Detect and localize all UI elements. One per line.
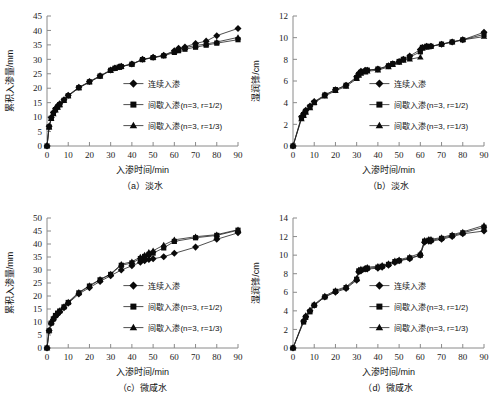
marker-triangle [376, 324, 384, 330]
y-tick-label: 45 [33, 11, 43, 21]
marker-triangle [130, 122, 138, 128]
x-tick-label: 0 [291, 352, 296, 362]
x-tick-label: 10 [64, 352, 74, 362]
legend-label: 间歇入渗(n=3, r=1/2) [148, 100, 222, 110]
x-tick-label: 30 [106, 352, 116, 362]
y-tick-label: 40 [33, 26, 43, 36]
x-tick-label: 40 [373, 150, 383, 160]
x-tick-label: 20 [85, 150, 95, 160]
x-tick-label: 50 [395, 150, 405, 160]
marker-triangle [376, 122, 384, 128]
x-tick-label: 80 [212, 150, 222, 160]
x-tick-label: 40 [373, 352, 383, 362]
y-tick-label: 35 [33, 252, 43, 262]
x-tick-label: 60 [416, 352, 426, 362]
y-tick-label: 0 [284, 141, 289, 151]
chart-panel-b: 0246810120102030405060708090湿润锋/cm入渗时间/m… [246, 0, 492, 202]
marker-square [376, 304, 382, 310]
panel-caption: （b）淡水 [368, 180, 409, 191]
legend-label: 间歇入渗(n=3, r=1/3) [148, 323, 222, 333]
chart-svg-a: 0510152025303540450102030405060708090累积入… [0, 0, 246, 202]
x-tick-label: 40 [127, 352, 137, 362]
y-tick-label: 20 [33, 83, 43, 93]
marker-square [376, 102, 382, 108]
x-tick-label: 70 [191, 150, 201, 160]
x-tick-label: 70 [191, 352, 201, 362]
y-axis-title: 累积入渗量/mm [4, 252, 15, 315]
x-tick-label: 0 [291, 150, 296, 160]
x-tick-label: 10 [310, 150, 320, 160]
marker-diamond [234, 25, 241, 32]
x-tick-label: 0 [45, 150, 50, 160]
x-tick-label: 90 [480, 352, 490, 362]
legend-label: 间歇入渗(n=3, r=1/3) [148, 121, 222, 131]
legend-label: 间歇入渗(n=3, r=1/2) [148, 302, 222, 312]
legend-entry: 间歇入渗(n=3, r=1/2) [123, 302, 222, 312]
y-tick-label: 0 [38, 141, 43, 151]
x-tick-label: 80 [212, 352, 222, 362]
marker-diamond [129, 282, 137, 290]
legend-label: 连续入渗 [148, 79, 180, 89]
y-axis-title: 累积入渗量/mm [4, 50, 15, 113]
y-tick-label: 25 [33, 278, 43, 288]
x-tick-label: 30 [352, 150, 362, 160]
marker-triangle [160, 242, 167, 247]
x-tick-label: 70 [437, 352, 447, 362]
marker-diamond [160, 253, 167, 260]
x-tick-label: 90 [234, 150, 244, 160]
marker-square [130, 304, 136, 310]
legend-entry: 间歇入渗(n=3, r=1/2) [369, 100, 468, 110]
y-tick-label: 8 [284, 55, 289, 65]
y-tick-label: 4 [284, 306, 289, 316]
legend-entry: 连续入渗 [123, 79, 180, 89]
figure-container: 0510152025303540450102030405060708090累积入… [0, 0, 492, 405]
legend-label: 间歇入渗(n=3, r=1/3) [394, 121, 468, 131]
x-tick-label: 20 [85, 352, 95, 362]
legend-entry: 连续入渗 [123, 281, 180, 291]
chart-svg-b: 0246810120102030405060708090湿润锋/cm入渗时间/m… [246, 0, 492, 202]
x-tick-label: 20 [331, 150, 341, 160]
x-tick-label: 90 [480, 150, 490, 160]
y-tick-label: 15 [33, 304, 43, 314]
legend-entry: 连续入渗 [369, 281, 426, 291]
chart-panel-c: 051015202530354045500102030405060708090累… [0, 202, 246, 404]
y-tick-label: 5 [38, 127, 43, 137]
marker-diamond [375, 282, 383, 290]
x-tick-label: 0 [45, 352, 50, 362]
panel-caption: （c）微咸水 [118, 382, 168, 393]
x-tick-label: 60 [170, 352, 180, 362]
x-tick-label: 60 [170, 150, 180, 160]
x-tick-label: 20 [331, 352, 341, 362]
x-axis-title: 入渗时间/min [362, 164, 415, 175]
y-tick-label: 6 [284, 287, 289, 297]
chart-svg-c: 051015202530354045500102030405060708090累… [0, 202, 246, 404]
y-tick-label: 40 [33, 239, 43, 249]
marker-diamond [129, 80, 137, 88]
legend-label: 连续入渗 [148, 281, 180, 291]
y-tick-label: 30 [33, 265, 43, 275]
x-axis-title: 入渗时间/min [116, 164, 169, 175]
marker-triangle [130, 324, 138, 330]
x-tick-label: 50 [395, 352, 405, 362]
y-tick-label: 14 [279, 213, 289, 223]
x-tick-label: 80 [458, 352, 468, 362]
y-tick-label: 4 [284, 98, 289, 108]
marker-triangle [150, 248, 157, 253]
legend-label: 间歇入渗(n=3, r=1/3) [394, 323, 468, 333]
legend-label: 连续入渗 [394, 79, 426, 89]
y-tick-label: 10 [33, 112, 43, 122]
legend-entry: 间歇入渗(n=3, r=1/3) [123, 323, 222, 333]
y-tick-label: 0 [284, 343, 289, 353]
y-tick-label: 8 [284, 269, 289, 279]
x-tick-label: 30 [352, 352, 362, 362]
x-tick-label: 40 [127, 150, 137, 160]
legend-label: 间歇入渗(n=3, r=1/2) [394, 100, 468, 110]
y-tick-label: 10 [33, 317, 43, 327]
legend-entry: 连续入渗 [369, 79, 426, 89]
y-tick-label: 6 [284, 76, 289, 86]
x-tick-label: 30 [106, 150, 116, 160]
x-tick-label: 50 [149, 352, 159, 362]
marker-square [130, 102, 136, 108]
marker-diamond [375, 80, 383, 88]
y-tick-label: 2 [284, 120, 289, 130]
